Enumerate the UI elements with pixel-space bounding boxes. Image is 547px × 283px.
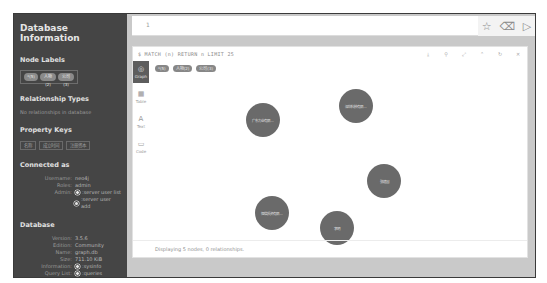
close-icon[interactable]: ✕ xyxy=(509,51,527,58)
favorite-star-icon[interactable]: ☆ xyxy=(482,21,492,32)
tab-code[interactable]: ▭ Code xyxy=(133,136,149,158)
play-icon xyxy=(74,201,79,206)
fullscreen-icon[interactable]: ⤢ xyxy=(455,51,473,58)
tab-graph[interactable]: ◎ Graph xyxy=(133,61,149,83)
name-value: graph.db xyxy=(75,249,98,256)
username-value: neo4j xyxy=(75,175,89,182)
graph-node[interactable]: 广东力业有限… xyxy=(246,103,280,137)
play-icon xyxy=(75,271,80,276)
table-icon: ▦ xyxy=(138,90,145,99)
query-list-label: Query List: xyxy=(20,270,75,277)
edition-value: Community xyxy=(75,242,104,249)
code-icon: ▭ xyxy=(138,140,145,149)
legend-all[interactable]: *(5) xyxy=(155,65,169,72)
graph-node[interactable]: 深圳科技有限… xyxy=(339,89,373,123)
cypher-editor[interactable]: 1 ☆ ⌫ ▷ xyxy=(132,16,535,36)
database-info-sidebar: Database Information Node Labels *(5) 人物… xyxy=(14,14,127,277)
server-user-add-link[interactable]: :server user add xyxy=(74,196,121,210)
relationship-types-heading: Relationship Types xyxy=(20,95,121,103)
result-frame: $ MATCH (n) RETURN n LIMIT 25 ⤓ ⚲ ⤢ ⌃ ↻ … xyxy=(132,46,528,258)
property-keys-list: 名称 成立时间 注册资本 xyxy=(20,141,121,150)
tab-text[interactable]: A Text xyxy=(133,111,149,133)
name-label: Name: xyxy=(20,249,75,256)
download-icon[interactable]: ⤓ xyxy=(419,51,437,58)
roles-value: admin xyxy=(75,182,91,189)
editor-actions: ☆ ⌫ ▷ xyxy=(478,16,535,36)
tab-code-label: Code xyxy=(136,149,146,154)
database-heading: Database xyxy=(20,221,121,229)
node-label-person[interactable]: 人物(2) xyxy=(40,73,56,81)
property-key-name[interactable]: 名称 xyxy=(20,141,36,150)
app-window: Database Information Node Labels *(5) 人物… xyxy=(13,13,536,278)
queries-link[interactable]: :queries xyxy=(75,270,102,277)
graph-node[interactable]: 张建国 xyxy=(367,164,401,198)
tab-text-label: Text xyxy=(137,124,145,129)
information-label: Information: xyxy=(20,263,75,270)
legend-person[interactable]: 人物(2) xyxy=(173,65,193,72)
database-details: Version:3.5.6 Edition:Community Name:gra… xyxy=(20,235,121,277)
server-user-list-link[interactable]: :server user list xyxy=(75,189,121,196)
roles-label: Roles: xyxy=(20,182,75,189)
connection-details: Username:neo4j Roles:admin Admin::server… xyxy=(20,175,121,210)
version-label: Version: xyxy=(20,235,75,242)
connected-as-heading: Connected as xyxy=(20,161,121,169)
main-panel: 1 ☆ ⌫ ▷ $ MATCH (n) RETURN n LIMIT 25 ⤓ … xyxy=(127,14,535,277)
property-key-founded[interactable]: 成立时间 xyxy=(39,141,63,150)
view-tabs: ◎ Graph ▦ Table A Text ▭ Code xyxy=(133,61,149,161)
node-labels-heading: Node Labels xyxy=(20,56,121,64)
property-keys-heading: Property Keys xyxy=(20,126,121,134)
size-value: 711.10 KiB xyxy=(75,256,102,263)
username-label: Username: xyxy=(20,175,75,182)
play-icon xyxy=(75,264,80,269)
text-icon: A xyxy=(139,115,144,124)
tab-table[interactable]: ▦ Table xyxy=(133,86,149,108)
node-label-company[interactable]: 公司(3) xyxy=(58,73,74,81)
graph-legend: *(5) 人物(2) 公司(3) xyxy=(155,65,216,72)
pin-icon[interactable]: ⚲ xyxy=(437,51,455,58)
no-relationships-text: No relationships in database xyxy=(20,109,121,115)
node-label-all[interactable]: *(5) xyxy=(24,73,38,81)
tab-graph-label: Graph xyxy=(135,74,147,79)
result-frame-header: $ MATCH (n) RETURN n LIMIT 25 ⤓ ⚲ ⤢ ⌃ ↻ … xyxy=(133,47,527,61)
rerun-icon[interactable]: ↻ xyxy=(491,51,509,58)
sidebar-title: Database Information xyxy=(20,23,121,43)
size-label: Size: xyxy=(20,256,75,263)
run-play-icon[interactable]: ▷ xyxy=(523,21,531,32)
line-number: 1 xyxy=(146,21,150,28)
sysinfo-link[interactable]: :sysinfo xyxy=(75,263,101,270)
collapse-icon[interactable]: ⌃ xyxy=(473,51,491,58)
play-icon xyxy=(75,190,80,195)
sysinfo-text: :sysinfo xyxy=(82,263,101,270)
graph-canvas[interactable]: 广东力业有限…深圳科技有限…张建国恒信投资有限…李明 xyxy=(149,75,527,240)
clear-eraser-icon[interactable]: ⌫ xyxy=(499,21,515,32)
edition-label: Edition: xyxy=(20,242,75,249)
version-value: 3.5.6 xyxy=(75,235,88,242)
node-labels-list: *(5) 人物(2) 公司(3) xyxy=(20,70,78,84)
tab-table-label: Table xyxy=(136,99,146,104)
graph-icon: ◎ xyxy=(138,65,144,74)
server-user-add-text: :server user add xyxy=(81,196,121,210)
queries-text: :queries xyxy=(82,270,102,277)
property-key-capital[interactable]: 注册资本 xyxy=(66,141,90,150)
admin-label: Admin: xyxy=(20,189,75,196)
legend-company[interactable]: 公司(3) xyxy=(196,65,216,72)
frame-actions: ⤓ ⚲ ⤢ ⌃ ↻ ✕ xyxy=(419,51,527,58)
graph-node[interactable]: 恒信投资有限… xyxy=(255,196,289,230)
result-query[interactable]: $ MATCH (n) RETURN n LIMIT 25 xyxy=(138,51,234,57)
server-user-list-text: :server user list xyxy=(82,189,121,196)
result-status: Displaying 5 nodes, 0 relationships. xyxy=(133,240,527,257)
